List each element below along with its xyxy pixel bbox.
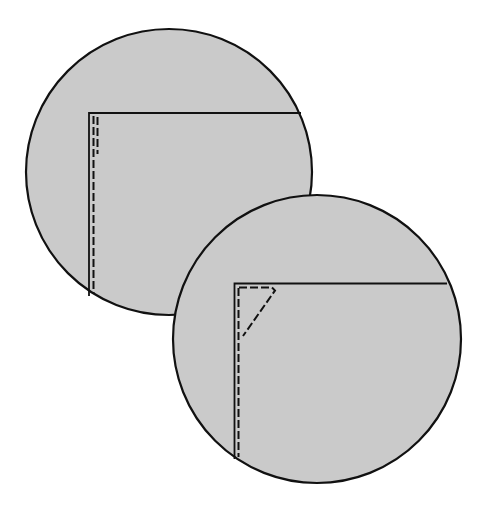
corner-stitch-diagram bbox=[0, 0, 484, 509]
diagram-canvas bbox=[0, 0, 484, 509]
detail-view-2 bbox=[173, 195, 461, 483]
magnifier-circle-2 bbox=[173, 195, 461, 483]
